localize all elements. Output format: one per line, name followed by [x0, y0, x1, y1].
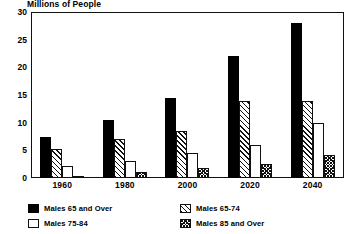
legend-item: Males 85 and Over: [180, 216, 332, 231]
legend-item: Males 65-74: [180, 201, 332, 216]
x-axis-tick-label: 2000: [178, 180, 198, 190]
legend-label: Males 65 and Over: [44, 204, 112, 213]
y-axis-tick-label: 20: [0, 62, 27, 72]
y-axis-tick-label: 15: [0, 90, 27, 100]
legend-swatch-icon: [28, 204, 39, 213]
legend-label: Males 65-74: [196, 204, 240, 213]
x-axis-tick-label: 1980: [115, 180, 135, 190]
plot-area: [31, 12, 344, 178]
legend-swatch-icon: [28, 219, 39, 228]
legend-item: Males 75-84: [28, 216, 180, 231]
legend-swatch-icon: [180, 204, 191, 213]
bar-chart: Millions of People 051015202530 19601980…: [0, 0, 352, 234]
chart-title: Millions of People: [27, 0, 101, 9]
x-axis-tick-label: 2040: [303, 180, 323, 190]
legend-item: Males 65 and Over: [28, 201, 180, 216]
y-axis-tick-label: 0: [0, 173, 27, 183]
y-axis-tick-label: 10: [0, 118, 27, 128]
y-axis-tick-label: 25: [0, 35, 27, 45]
x-axis-tick-label: 1960: [52, 180, 72, 190]
x-axis-tick-label: 2020: [240, 180, 260, 190]
chart-legend: Males 65 and OverMales 65-74Males 75-84M…: [28, 201, 328, 233]
y-axis-tick-label: 30: [0, 7, 27, 17]
legend-swatch-icon: [180, 219, 191, 228]
y-axis: 051015202530: [0, 0, 31, 234]
y-axis-tick-label: 5: [0, 145, 27, 155]
legend-label: Males 75-84: [44, 219, 88, 228]
legend-label: Males 85 and Over: [196, 219, 264, 228]
x-axis: 19601980200020202040: [31, 180, 344, 196]
